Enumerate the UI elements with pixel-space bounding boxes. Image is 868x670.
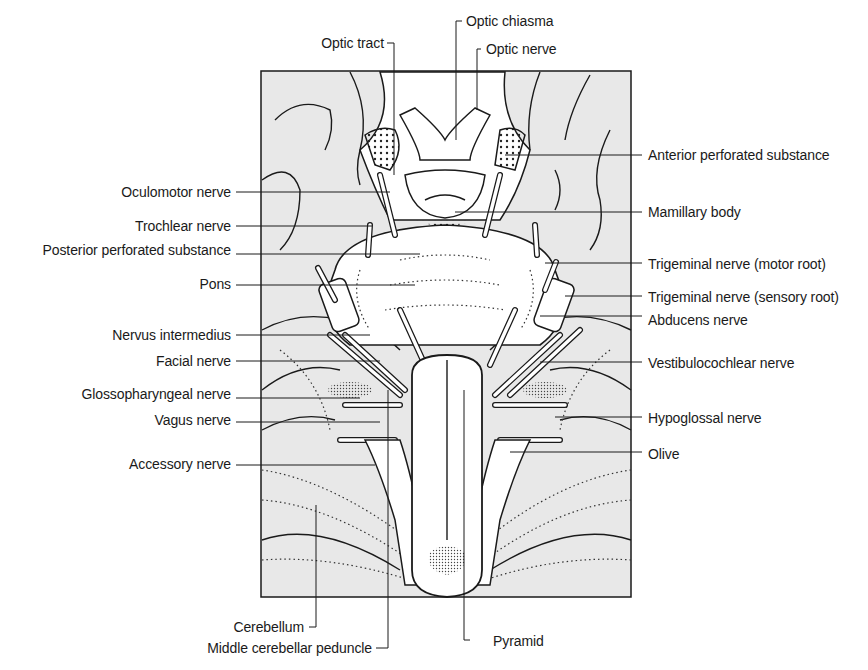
label-facial-nerve: Facial nerve	[156, 353, 231, 369]
label-cerebellum: Cerebellum	[233, 619, 304, 635]
label-mamillary-body: Mamillary body	[648, 204, 741, 220]
label-middle-cerebellar-peduncle: Middle cerebellar peduncle	[207, 640, 372, 656]
label-accessory-nerve: Accessory nerve	[129, 456, 231, 472]
label-olive: Olive	[648, 446, 679, 462]
label-vestibulocochlear-nerve: Vestibulocochlear nerve	[648, 355, 794, 371]
label-posterior-perforated-substance: Posterior perforated substance	[43, 242, 231, 258]
label-glossopharyngeal-nerve: Glossopharyngeal nerve	[81, 386, 231, 402]
label-optic-tract: Optic tract	[321, 35, 384, 51]
label-nervus-intermedius: Nervus intermedius	[112, 327, 231, 343]
label-trigeminal-motor-root: Trigeminal nerve (motor root)	[648, 256, 826, 272]
brainstem-diagram: Optic chiasma Optic nerve Optic tract Oc…	[0, 0, 868, 670]
flocculus-left	[328, 382, 372, 398]
flocculus-right	[523, 382, 567, 398]
label-pyramid: Pyramid	[493, 633, 544, 649]
label-anterior-perforated-substance: Anterior perforated substance	[648, 147, 830, 163]
label-abducens-nerve: Abducens nerve	[648, 312, 748, 328]
label-oculomotor-nerve: Oculomotor nerve	[121, 184, 231, 200]
label-optic-nerve: Optic nerve	[486, 41, 557, 57]
label-optic-chiasma: Optic chiasma	[466, 13, 553, 29]
label-pons: Pons	[199, 276, 231, 292]
label-hypoglossal-nerve: Hypoglossal nerve	[648, 410, 761, 426]
label-trigeminal-sensory-root: Trigeminal nerve (sensory root)	[648, 289, 839, 305]
label-vagus-nerve: Vagus nerve	[155, 412, 231, 428]
label-trochlear-nerve: Trochlear nerve	[135, 218, 231, 234]
